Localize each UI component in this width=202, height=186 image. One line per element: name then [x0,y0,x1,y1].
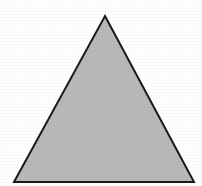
figure-canvas [0,0,202,186]
triangle-figure [0,0,202,186]
